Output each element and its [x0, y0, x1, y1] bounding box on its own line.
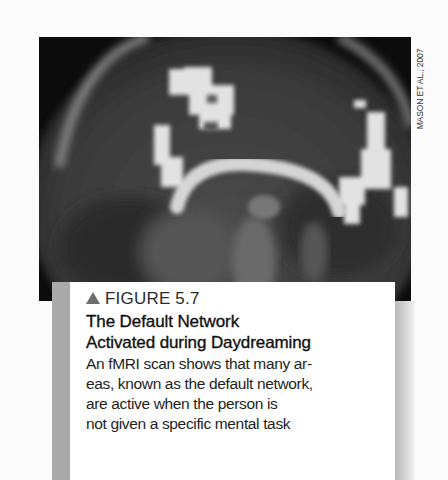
figure-title-line: The Default Network — [86, 311, 395, 332]
figure-description: An fMRI scan shows that many ar- eas, kn… — [86, 354, 395, 434]
description-line: An fMRI scan shows that many ar- — [86, 354, 395, 374]
caption-left-bar — [52, 282, 70, 480]
figure-title: The Default Network Activated during Day… — [86, 311, 395, 353]
description-line: not given a specific mental task — [86, 414, 395, 434]
description-line: eas, known as the default network, — [86, 374, 395, 394]
photo-credit: MASON ET AL., 2007 — [414, 37, 426, 141]
figure-caption: FIGURE 5.7 The Default Network Activated… — [70, 282, 395, 480]
figure-label: FIGURE 5.7 — [86, 289, 395, 309]
textbook-figure: MASON ET AL., 2007 FIGURE 5.7 The Defaul… — [0, 0, 448, 480]
figure-title-line: Activated during Daydreaming — [86, 332, 395, 353]
description-line: are active when the person is — [86, 394, 395, 414]
caption-right-shadow — [395, 301, 415, 480]
fmri-brain-scan-image — [39, 37, 411, 301]
triangle-up-icon — [86, 292, 100, 304]
